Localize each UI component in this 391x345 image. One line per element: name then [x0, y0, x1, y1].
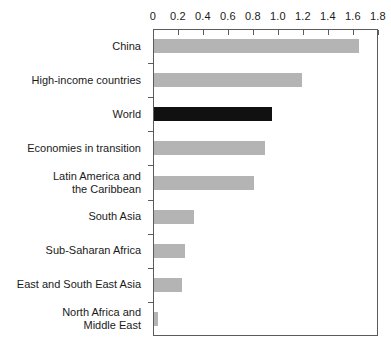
- y-axis-tick: [148, 302, 153, 303]
- x-axis-tick: [303, 30, 304, 35]
- x-axis-tick-label: 0.4: [195, 10, 211, 22]
- category-label-group: ChinaHigh-income countriesWorldEconomies…: [0, 29, 147, 336]
- plot-area: 00.20.40.60.81.01.21.41.61.8: [153, 29, 378, 336]
- bar: [154, 39, 359, 53]
- x-axis-tick: [178, 30, 179, 35]
- bar: [154, 244, 185, 258]
- x-axis-tick: [153, 30, 154, 35]
- category-label: Sub-Saharan Africa: [46, 244, 141, 257]
- bar: [154, 278, 182, 292]
- y-axis-tick: [148, 131, 153, 132]
- category-label: East and South East Asia: [17, 278, 141, 291]
- x-axis-tick: [378, 30, 379, 35]
- category-label: South Asia: [88, 210, 141, 223]
- x-axis-tick-label: 1.2: [295, 10, 311, 22]
- y-axis-tick: [148, 234, 153, 235]
- bottom-axis-line: [153, 335, 378, 336]
- x-axis-tick-label: 0: [150, 10, 156, 22]
- x-axis-tick-label: 1.4: [320, 10, 336, 22]
- bar: [154, 73, 302, 87]
- x-axis-tick: [353, 30, 354, 35]
- bar: [154, 107, 272, 121]
- bar: [154, 312, 158, 326]
- bar: [154, 210, 194, 224]
- category-label: High-income countries: [32, 74, 141, 87]
- x-axis-tick-label: 0.8: [245, 10, 261, 22]
- category-label: World: [112, 108, 141, 121]
- y-axis-tick: [148, 200, 153, 201]
- x-axis-tick-label: 0.6: [220, 10, 236, 22]
- category-label: North Africa and Middle East: [62, 306, 141, 332]
- category-label: Economies in transition: [27, 142, 141, 155]
- y-axis-tick: [148, 165, 153, 166]
- x-axis-tick: [328, 30, 329, 35]
- y-axis-tick: [148, 63, 153, 64]
- x-axis-tick: [228, 30, 229, 35]
- category-label: China: [112, 40, 141, 53]
- bar: [154, 176, 254, 190]
- right-axis-line: [377, 29, 378, 336]
- y-axis-tick: [148, 268, 153, 269]
- bar: [154, 141, 265, 155]
- x-axis-tick: [253, 30, 254, 35]
- bar-chart: ChinaHigh-income countriesWorldEconomies…: [0, 0, 391, 345]
- x-axis-tick: [203, 30, 204, 35]
- x-axis-tick: [278, 30, 279, 35]
- category-label: Latin America and the Caribbean: [53, 170, 141, 196]
- x-axis-tick-label: 1.6: [345, 10, 361, 22]
- x-axis-tick-label: 1.8: [370, 10, 386, 22]
- y-axis-tick: [148, 97, 153, 98]
- top-axis-line: [153, 29, 378, 30]
- x-axis-tick-label: 1.0: [270, 10, 286, 22]
- x-axis-tick-label: 0.2: [170, 10, 186, 22]
